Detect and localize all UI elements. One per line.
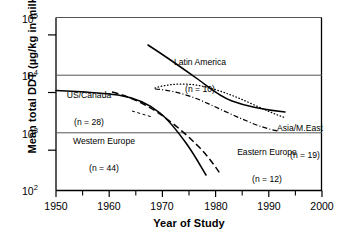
- series-label-western-europe: Western Europe (n = 44): [62, 119, 146, 191]
- x-tick-label-1950: 1950: [40, 200, 72, 212]
- x-tick-label-1980: 1980: [200, 200, 232, 212]
- series-label-us-canada-name: US/Canada: [58, 91, 120, 100]
- series-label-eastern-europe: Eastern Europe (n = 12): [226, 130, 308, 202]
- series-label-western-europe-name: Western Europe: [62, 137, 146, 146]
- ddt-trend-chart: Mean total DDT (µg/kg in milk fat) 105 1…: [0, 0, 342, 245]
- series-label-latin-america-n: (n = 10): [161, 85, 239, 94]
- x-tick-label-2000: 2000: [306, 200, 338, 212]
- label-leaders: [132, 111, 152, 117]
- series-label-eastern-europe-n: (n = 12): [226, 175, 308, 184]
- series-label-latin-america: Latin America (n = 10): [161, 40, 239, 112]
- x-tick-label-1970: 1970: [146, 200, 178, 212]
- x-tick-label-1960: 1960: [93, 200, 125, 212]
- series-label-eastern-europe-name: Eastern Europe: [226, 148, 308, 157]
- series-label-latin-america-name: Latin America: [161, 58, 239, 67]
- y-tick-label-100: 102: [22, 183, 38, 197]
- series-label-western-europe-n: (n = 44): [62, 164, 146, 173]
- y-tick-label-1000: 103: [22, 126, 38, 140]
- x-axis-title: Year of Study: [56, 217, 322, 229]
- y-tick-label-100000: 105: [22, 11, 38, 25]
- y-minor-ticks: [48, 35, 56, 150]
- x-tick-label-1990: 1990: [253, 200, 285, 212]
- y-tick-label-10000: 104: [22, 68, 38, 82]
